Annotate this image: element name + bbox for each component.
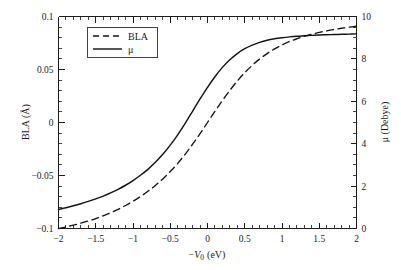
- x-axis-title: −V0(eV): [189, 249, 226, 262]
- x-tick-label: 0: [205, 234, 210, 244]
- y-right-tick-label: 10: [362, 12, 372, 22]
- legend: BLA μ: [88, 28, 158, 58]
- svg-text:−V0(eV): −V0(eV): [189, 249, 226, 262]
- y-right-tick-label: 6: [362, 97, 367, 107]
- x-tick-label: 2: [354, 234, 359, 244]
- y-right-tick-label: 2: [362, 182, 367, 192]
- y-axis-right-minor-ticks: [353, 27, 357, 218]
- x-tick-label: −1: [128, 234, 138, 244]
- y-tick-label: 0.1: [42, 12, 54, 22]
- x-tick-label: −2: [53, 234, 63, 244]
- x-tick-label: −0.5: [162, 234, 179, 244]
- legend-label-bla: BLA: [128, 31, 149, 42]
- y-tick-label: 0: [49, 118, 54, 128]
- y-right-tick-label: 4: [362, 139, 367, 149]
- x-axis-title-units: (eV): [207, 249, 225, 261]
- x-axis-tick-labels: −2−1.5−1−0.500.511.52: [53, 234, 359, 244]
- figure-container: −2−1.5−1−0.500.511.52 −0.1−0.0500.050.1 …: [0, 0, 401, 270]
- x-tick-label: 1.5: [313, 234, 325, 244]
- y-tick-label: −0.05: [32, 171, 54, 181]
- x-axis-title-subscript: 0: [200, 253, 204, 262]
- chart-plot: −2−1.5−1−0.500.511.52 −0.1−0.0500.050.1 …: [0, 0, 401, 270]
- y-right-tick-label: 0: [362, 224, 367, 234]
- y-tick-label: 0.05: [37, 65, 54, 75]
- x-tick-label: 0.5: [239, 234, 251, 244]
- y-right-tick-label: 8: [362, 54, 367, 64]
- y-axis-left-tick-labels: −0.1−0.0500.050.1: [32, 12, 54, 234]
- y-axis-right-title: μ (Debye): [379, 102, 391, 143]
- x-tick-label: −1.5: [87, 234, 104, 244]
- y-tick-label: −0.1: [36, 224, 53, 234]
- y-axis-right-tick-labels: 0246810: [362, 12, 372, 234]
- legend-label-mu: μ: [128, 44, 133, 55]
- x-tick-label: 1: [280, 234, 285, 244]
- y-axis-left-title: BLA (Å): [20, 104, 32, 140]
